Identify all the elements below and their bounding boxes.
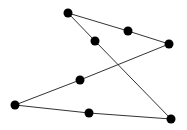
node-n5 [76,76,85,85]
edge-n5-n6 [15,80,80,105]
node-n7 [85,109,94,118]
node-n6 [11,101,20,110]
node-n4 [91,37,100,46]
edge-n3-n5 [80,44,169,80]
edge-n6-n7 [15,105,89,113]
nodes-layer [11,9,176,124]
node-n8 [167,115,176,124]
edge-n8-n4 [95,41,171,119]
node-n2 [124,27,133,36]
diagram-canvas [0,0,187,130]
node-n1 [64,9,73,18]
node-n3 [165,40,174,49]
edges-layer [15,13,171,119]
edge-n2-n3 [128,31,169,44]
edge-n7-n8 [89,113,171,119]
